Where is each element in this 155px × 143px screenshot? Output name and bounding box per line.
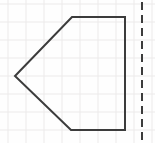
geometry-figure-svg [0,0,155,143]
figure-canvas [0,0,155,143]
canvas-background [0,0,155,143]
